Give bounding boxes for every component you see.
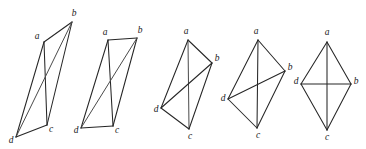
graph-1-edges bbox=[16, 22, 72, 137]
edge-cd bbox=[301, 84, 327, 130]
vertex-label-a: a bbox=[35, 31, 40, 41]
graph-canvas: abcdabcdabcdabcdabcd bbox=[0, 0, 366, 149]
vertex-label-d: d bbox=[154, 104, 159, 114]
graph-2-edges bbox=[81, 38, 137, 128]
graph-5-edges bbox=[301, 42, 351, 130]
edge-bd bbox=[16, 22, 72, 137]
edge-bc bbox=[113, 38, 137, 126]
vertex-label-c: c bbox=[325, 132, 330, 142]
graph-figure-row: abcdabcdabcdabcdabcd bbox=[0, 0, 366, 149]
vertex-label-b: b bbox=[72, 8, 77, 18]
edge-ab bbox=[258, 40, 285, 71]
edge-ad bbox=[228, 40, 258, 99]
vertex-label-b: b bbox=[288, 62, 293, 72]
edge-ac bbox=[44, 42, 47, 125]
graph-4-edges bbox=[228, 40, 285, 128]
edge-ad bbox=[16, 42, 44, 137]
edge-cd bbox=[228, 99, 257, 128]
edge-ab bbox=[327, 42, 351, 84]
vertex-label-d: d bbox=[221, 93, 226, 103]
edge-bc bbox=[257, 71, 285, 128]
edge-ad bbox=[161, 40, 188, 108]
edge-cd bbox=[161, 108, 189, 129]
edge-cd bbox=[81, 126, 113, 128]
vertex-label-a: a bbox=[184, 26, 189, 36]
vertex-label-c: c bbox=[256, 130, 261, 140]
vertex-label-a: a bbox=[254, 26, 259, 36]
vertex-label-b: b bbox=[354, 76, 359, 86]
edge-bd bbox=[228, 71, 285, 99]
vertex-label-c: c bbox=[115, 125, 120, 135]
vertex-label-a: a bbox=[103, 27, 108, 37]
graph-1-labels: abcd bbox=[9, 8, 77, 145]
edge-ab bbox=[108, 38, 137, 40]
graph-5-labels: abcd bbox=[294, 27, 359, 142]
edge-ad bbox=[81, 40, 108, 128]
vertex-label-d: d bbox=[294, 76, 299, 86]
edge-ab bbox=[188, 40, 212, 63]
edges-layer bbox=[16, 22, 351, 137]
vertex-label-c: c bbox=[188, 131, 193, 141]
vertex-label-c: c bbox=[49, 124, 54, 134]
graph-3-edges bbox=[161, 40, 212, 129]
vertex-label-a: a bbox=[325, 27, 330, 37]
vertex-label-d: d bbox=[9, 135, 14, 145]
edge-ad bbox=[301, 42, 327, 84]
vertex-label-d: d bbox=[74, 125, 79, 135]
edge-bc bbox=[327, 84, 351, 130]
vertex-label-b: b bbox=[138, 25, 143, 35]
vertex-label-b: b bbox=[215, 53, 220, 63]
